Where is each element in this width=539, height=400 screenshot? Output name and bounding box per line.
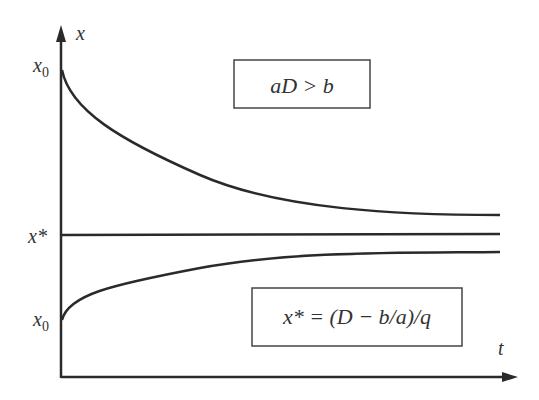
x-star-label: x* [27,225,47,247]
condition-text: aD > b [270,73,334,98]
x-axis-label: t [498,337,504,359]
y-axis-label: x [75,22,85,44]
x0-top-label: x0 [32,54,49,80]
y-axis-arrow-icon [56,25,66,42]
equilibrium-text: x* = (D − b/a)/q [282,304,431,329]
x0-bottom-label: x0 [32,308,49,334]
x-axis-arrow-icon [502,372,518,382]
equilibrium-line [61,234,500,235]
phase-diagram: x t x0 x* x0 aD > b x* = (D − b/a)/q [0,0,539,400]
